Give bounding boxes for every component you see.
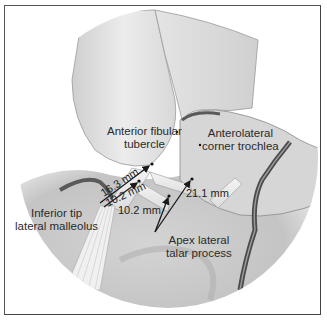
measurement-21-1: 21.1 mm [186, 187, 229, 199]
label-anterior-fibular-tubercle: Anterior fibular tubercle [107, 125, 182, 151]
label-anterolateral-corner-trochlea: Anterolateral corner trochlea [202, 127, 279, 153]
ankle-illustration [0, 0, 327, 320]
measurement-10-2-b: 10.2 mm [118, 204, 161, 216]
label-inferior-tip-lateral-malleolus: Inferior tip lateral malleolus [15, 207, 98, 233]
label-apex-lateral-talar-process: Apex lateral talar process [166, 234, 232, 260]
